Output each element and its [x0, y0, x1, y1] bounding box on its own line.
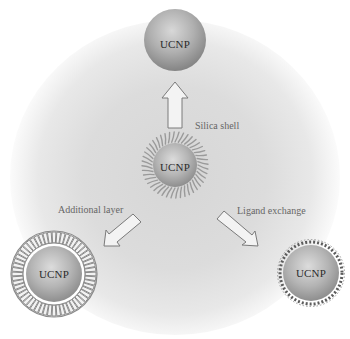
particle-label-center: UCNP: [160, 161, 190, 173]
arrow-to-silica: [162, 82, 188, 128]
arrow-to-ligand-exchange: [217, 211, 258, 246]
particle-label-ligand: UCNP: [296, 267, 326, 279]
arrow-label-additional: Additional layer: [58, 204, 123, 215]
arrow-label-silica: Silica shell: [195, 120, 239, 131]
particle-label-silica: UCNP: [160, 38, 190, 50]
particle-label-additional: UCNP: [39, 268, 69, 280]
arrow-to-additional-layer: [104, 214, 141, 246]
arrow-label-ligand: Ligand exchange: [237, 205, 306, 216]
